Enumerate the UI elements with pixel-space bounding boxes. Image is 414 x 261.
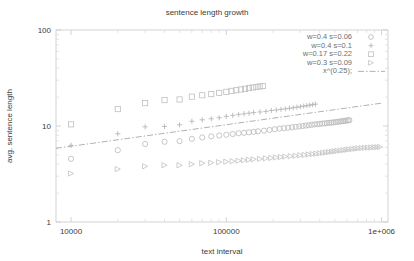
legend-label-4: x^(0.25); bbox=[323, 66, 352, 75]
y-tick-label-1: 10 bbox=[42, 122, 51, 131]
chart-container: sentence length growth 110100 1000010000… bbox=[0, 0, 414, 261]
x-tick-label-1: 100000 bbox=[213, 227, 240, 236]
chart-title: sentence length growth bbox=[166, 8, 249, 17]
y-axis-label: avg. sentence length bbox=[5, 89, 14, 163]
x-axis-label: text interval bbox=[202, 247, 243, 256]
y-tick-label-0: 1 bbox=[47, 218, 52, 227]
y-tick-label-2: 100 bbox=[38, 26, 52, 35]
chart-canvas: sentence length growth 110100 1000010000… bbox=[0, 0, 414, 261]
x-tick-label-2: 1e+006 bbox=[368, 227, 395, 236]
x-tick-label-0: 10000 bbox=[60, 227, 83, 236]
